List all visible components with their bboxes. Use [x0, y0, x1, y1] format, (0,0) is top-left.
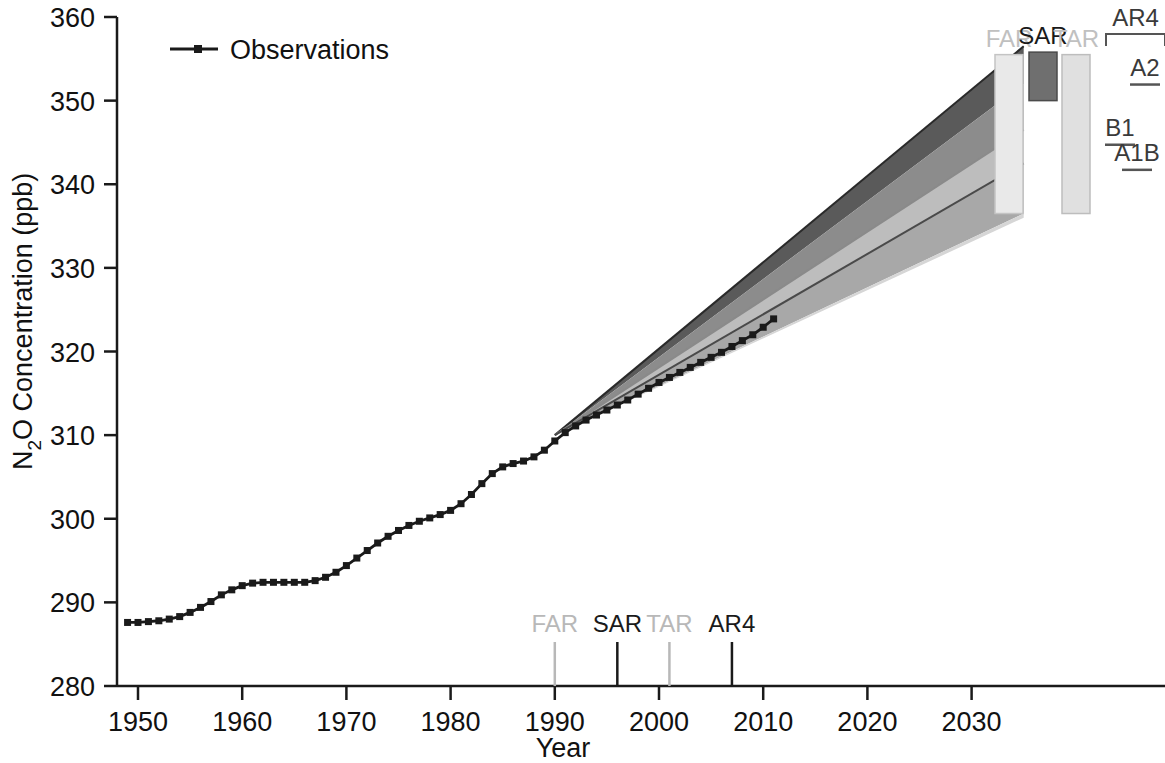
observation-point [770, 315, 777, 322]
observation-point [385, 533, 392, 540]
observation-point [301, 579, 308, 586]
observation-point [343, 562, 350, 569]
observation-point [510, 460, 517, 467]
observation-point [312, 577, 319, 584]
y-tick-label: 300 [50, 505, 95, 535]
observation-point [416, 518, 423, 525]
observation-point [749, 331, 756, 338]
y-axis-title-pre: N [8, 451, 38, 471]
observation-point [166, 616, 173, 623]
observation-point [249, 580, 256, 587]
x-tick-label: 2030 [942, 707, 1002, 737]
range-bar-FAR [995, 55, 1023, 214]
y-tick-label: 330 [50, 254, 95, 284]
observation-point [666, 374, 673, 381]
observation-point [135, 619, 142, 626]
observation-point [437, 511, 444, 518]
y-tick-label: 310 [50, 421, 95, 451]
chart-canvas: 195019601970198019902000201020202030 280… [0, 0, 1165, 763]
observation-point [572, 422, 579, 429]
observation-point [218, 591, 225, 598]
x-axis-ticks: 195019601970198019902000201020202030 [108, 686, 1002, 737]
y-axis-title: N2O Concentration (ppb) [8, 173, 45, 470]
svg-text:N2O Concentration (ppb): N2O Concentration (ppb) [8, 173, 45, 470]
observation-point [718, 349, 725, 356]
ar4-bracket-group: AR4A2B1A1B [1105, 4, 1165, 170]
observation-point [603, 407, 610, 414]
observation-point [499, 463, 506, 470]
observation-point [593, 412, 600, 419]
observation-point [489, 470, 496, 477]
observation-point [228, 586, 235, 593]
ar4-scenario-label-B1: B1 [1105, 114, 1134, 141]
y-tick-label: 360 [50, 3, 95, 33]
observation-point [322, 574, 329, 581]
y-axis-ticks: 280290300310320330340350360 [50, 3, 117, 702]
report-marker-label-AR4: AR4 [709, 610, 756, 637]
observation-point [739, 337, 746, 344]
fan-line-lower [555, 163, 1024, 435]
observation-point [708, 354, 715, 361]
y-tick-label: 320 [50, 338, 95, 368]
range-bars: FARSARTAR [986, 22, 1099, 213]
observation-point [614, 402, 621, 409]
observation-point [645, 385, 652, 392]
x-tick-label: 1980 [421, 707, 481, 737]
observation-point [207, 598, 214, 605]
ar4-bracket [1106, 34, 1165, 46]
observation-point [728, 343, 735, 350]
x-tick-label: 1950 [108, 707, 168, 737]
x-tick-label: 1960 [212, 707, 272, 737]
observation-point [676, 369, 683, 376]
n2o-concentration-chart: 195019601970198019902000201020202030 280… [0, 0, 1165, 763]
ar4-scenario-label-A2: A2 [1130, 54, 1159, 81]
x-axis-title: Year [536, 733, 591, 763]
observation-point [405, 522, 412, 529]
observation-point [124, 619, 131, 626]
report-marker-label-SAR: SAR [593, 610, 642, 637]
y-axis-title-post: O Concentration (ppb) [8, 173, 38, 440]
projection-fan [555, 46, 1024, 435]
observation-point [583, 417, 590, 424]
observation-point [270, 579, 277, 586]
observation-point [260, 579, 267, 586]
observation-point [760, 324, 767, 331]
fan-line-mid [555, 130, 1024, 435]
observation-point [562, 429, 569, 436]
observation-point [458, 500, 465, 507]
y-tick-label: 340 [50, 170, 95, 200]
observation-point [530, 453, 537, 460]
x-tick-label: 2020 [837, 707, 897, 737]
ar4-scenario-label-A1B: A1B [1114, 139, 1159, 166]
observation-point [155, 617, 162, 624]
y-tick-label: 280 [50, 672, 95, 702]
legend-marker-sample [194, 45, 202, 53]
range-bar-TAR [1062, 55, 1090, 214]
report-marker-label-FAR: FAR [531, 610, 578, 637]
observation-point [291, 579, 298, 586]
observation-point [624, 397, 631, 404]
observation-point [187, 609, 194, 616]
observation-point [520, 458, 527, 465]
y-tick-label: 290 [50, 588, 95, 618]
observation-point [635, 391, 642, 398]
observation-point [374, 540, 381, 547]
observation-point [447, 507, 454, 514]
observation-point [145, 618, 152, 625]
observation-point [468, 491, 475, 498]
x-tick-label: 2000 [629, 707, 689, 737]
observation-point [353, 555, 360, 562]
observation-point [395, 527, 402, 534]
x-tick-label: 1970 [316, 707, 376, 737]
observation-point [426, 514, 433, 521]
legend-label-observations: Observations [230, 35, 389, 65]
range-bar-SAR [1029, 52, 1057, 101]
observation-point [478, 480, 485, 487]
observation-point [332, 569, 339, 576]
y-tick-label: 350 [50, 87, 95, 117]
fan-band-upper-medium [555, 84, 1024, 435]
report-year-markers: FARSARTARAR4 [531, 610, 755, 686]
x-tick-label: 2010 [733, 707, 793, 737]
observation-point [551, 437, 558, 444]
observation-point [364, 547, 371, 554]
